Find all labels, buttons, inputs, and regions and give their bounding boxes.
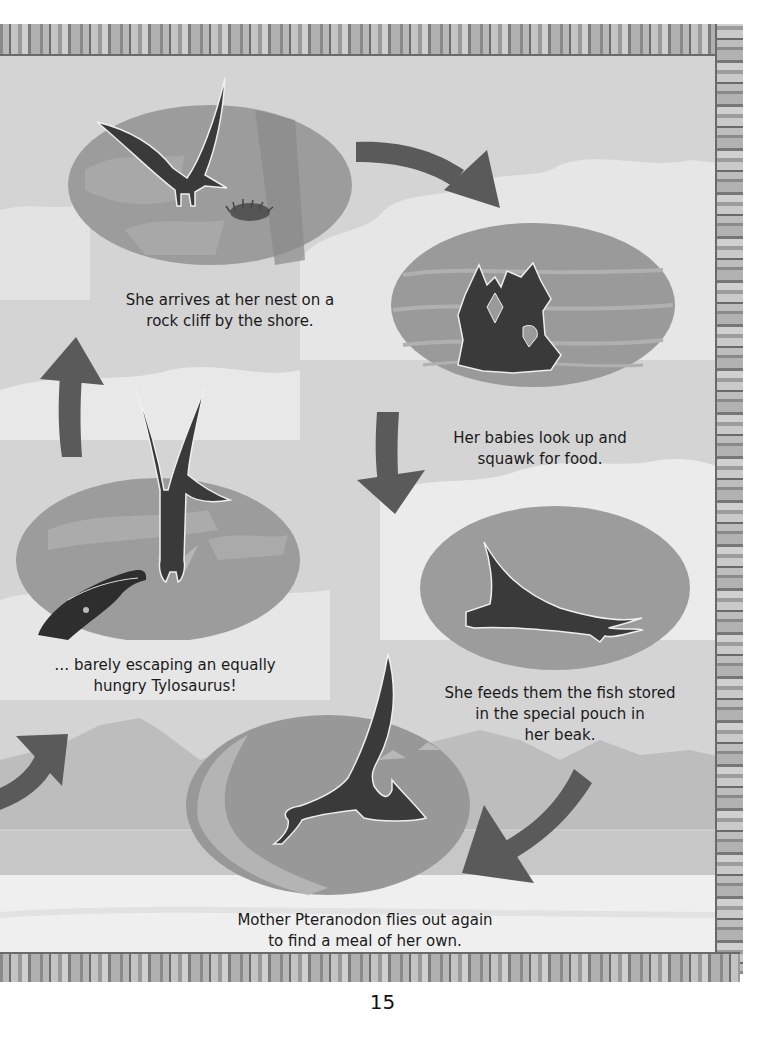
feeds-babies-illustration <box>410 500 690 675</box>
wood-border-top <box>0 24 740 56</box>
wood-border-bottom <box>0 952 740 982</box>
wood-border-right <box>715 24 743 974</box>
caption-escapes-tylosaurus: … barely escaping an equally hungry Tylo… <box>40 655 290 697</box>
arrow-up-icon <box>38 335 113 460</box>
caption-arrive-nest: She arrives at her nest on a rock cliff … <box>100 290 360 332</box>
arrive-nest-illustration <box>55 60 375 265</box>
arrow-right-down-icon <box>352 130 502 210</box>
caption-babies-squawk: Her babies look up and squawk for food. <box>400 428 680 470</box>
arrow-up-right-icon <box>0 730 75 820</box>
page-number: 15 <box>0 990 765 1014</box>
babies-squawk-illustration <box>383 215 683 395</box>
caption-flies-out: Mother Pteranodon flies out again to fin… <box>200 910 530 952</box>
